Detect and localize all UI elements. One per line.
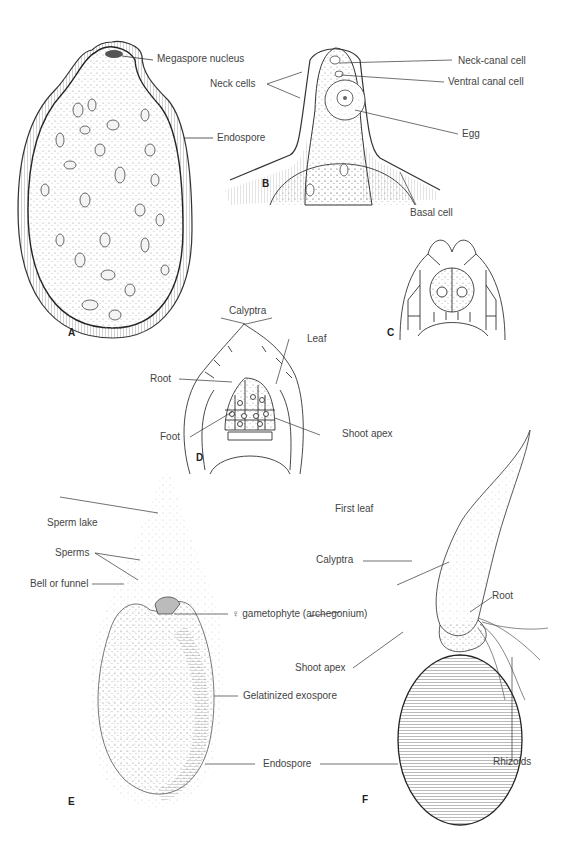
label-shoot-apex-f: Shoot apex — [295, 662, 346, 674]
label-calyptra-d: Calyptra — [229, 305, 266, 317]
label-endospore-e: Endospore — [263, 758, 311, 770]
label-leaf: Leaf — [307, 333, 326, 345]
panel-d-embryo — [179, 318, 320, 474]
label-sperm-lake: Sperm lake — [47, 517, 98, 529]
label-neck-canal-cell: Neck-canal cell — [458, 55, 526, 67]
label-root-f: Root — [492, 590, 513, 602]
label-endospore-a: Endospore — [217, 132, 265, 144]
label-shoot-apex-d: Shoot apex — [342, 428, 393, 440]
panel-letter-e: E — [68, 796, 75, 807]
panel-c-embryo — [400, 240, 505, 340]
label-bell-or-funnel: Bell or funnel — [30, 578, 88, 590]
panel-a-megaspore — [18, 42, 213, 338]
panel-letter-c: C — [387, 327, 394, 338]
panel-letter-d: D — [196, 452, 203, 463]
label-neck-cells: Neck cells — [210, 78, 256, 90]
label-root-d: Root — [150, 373, 171, 385]
botanical-illustration — [0, 0, 566, 854]
label-basal-cell: Basal cell — [410, 207, 453, 219]
label-ventral-canal-cell: Ventral canal cell — [448, 76, 524, 88]
panel-b-archegonium — [225, 48, 458, 205]
label-sperms: Sperms — [55, 547, 89, 559]
label-gelatinized-exospore: Gelatinized exospore — [243, 690, 337, 702]
panel-letter-b: B — [262, 178, 269, 189]
label-female-gametophyte: ♀ gametophyte (archegonium) — [232, 608, 367, 620]
panel-letter-f: F — [362, 794, 368, 805]
label-megaspore-nucleus: Megaspore nucleus — [157, 53, 244, 65]
label-first-leaf: First leaf — [335, 503, 373, 515]
panel-letter-a: A — [68, 327, 75, 338]
label-egg: Egg — [462, 128, 480, 140]
label-rhizoids: Rhizoids — [493, 756, 531, 768]
label-foot: Foot — [160, 431, 180, 443]
label-calyptra-f: Calyptra — [316, 554, 353, 566]
